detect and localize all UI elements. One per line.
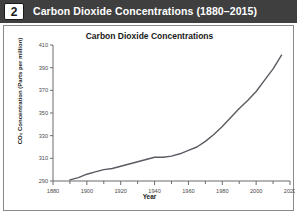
svg-text:350: 350 (39, 110, 48, 116)
svg-text:310: 310 (39, 155, 48, 161)
svg-text:1940: 1940 (148, 188, 160, 194)
svg-text:1880: 1880 (47, 188, 59, 194)
svg-text:390: 390 (39, 65, 48, 71)
line-chart-plot: 2903103303503703904101880190019201940196… (4, 26, 295, 212)
svg-text:1900: 1900 (81, 188, 93, 194)
header-bar: 2 Carbon Dioxide Concentrations (1880–20… (0, 0, 297, 23)
svg-text:370: 370 (39, 87, 48, 93)
svg-text:290: 290 (39, 178, 48, 184)
svg-text:410: 410 (39, 42, 48, 48)
svg-text:330: 330 (39, 133, 48, 139)
header-title: Carbon Dioxide Concentrations (1880–2015… (33, 0, 257, 23)
chart-panel: Carbon Dioxide Concentrations CO₂ Concen… (3, 25, 294, 211)
svg-text:1980: 1980 (216, 188, 228, 194)
svg-text:1920: 1920 (114, 188, 126, 194)
svg-text:2000: 2000 (250, 188, 262, 194)
figure-number-badge: 2 (4, 3, 24, 20)
svg-text:2020: 2020 (284, 188, 295, 194)
figure-container: 2 Carbon Dioxide Concentrations (1880–20… (0, 0, 297, 214)
svg-text:1960: 1960 (182, 188, 194, 194)
